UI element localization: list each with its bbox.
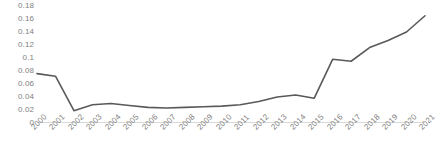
y-axis-tick-label: 0.02: [0, 106, 34, 114]
y-axis-tick-label: 0.1: [0, 54, 34, 62]
plot-area: [37, 6, 425, 123]
y-axis-tick-label: 0.12: [0, 41, 34, 49]
y-axis-tick-label: 0.06: [0, 80, 34, 88]
y-axis-tick-label: 0.08: [0, 67, 34, 75]
y-axis-tick-label: 0.14: [0, 28, 34, 36]
data-series-line: [37, 16, 425, 111]
x-axis: 2000200120022003200420052006200720082009…: [0, 122, 430, 154]
plot-svg: [37, 6, 425, 123]
y-axis-tick-label: 0.04: [0, 93, 34, 101]
y-axis-tick-label: 0.18: [0, 2, 34, 10]
y-axis-tick-label: 0.16: [0, 15, 34, 23]
